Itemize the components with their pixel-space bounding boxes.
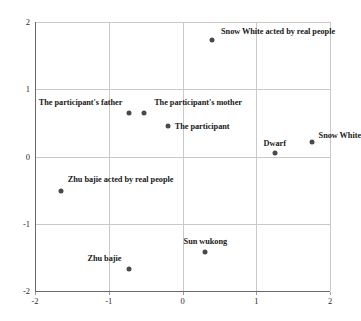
y-tick-label: 2 (8, 17, 30, 27)
y-tick-label: -1 (8, 219, 30, 229)
y-tick-label: -2 (8, 286, 30, 296)
data-point (165, 123, 170, 128)
point-label: The participant's father (39, 97, 123, 106)
x-tick-mark (109, 292, 110, 295)
x-tick-label: 2 (319, 296, 341, 306)
x-tick-label: -2 (24, 296, 46, 306)
point-label: Zhu bajie (87, 254, 121, 263)
y-tick-label: 0 (8, 152, 30, 162)
point-label: Sun wukong (184, 236, 228, 245)
x-tick-label: 0 (172, 296, 194, 306)
point-label: The participant's mother (154, 97, 242, 106)
x-tick-mark (330, 292, 331, 295)
gridline-vertical (256, 22, 257, 291)
data-point (58, 189, 63, 194)
point-label: Snow White (319, 130, 361, 139)
x-tick-mark (183, 292, 184, 295)
point-label: Dwarf (264, 139, 286, 148)
point-label: Zhu bajie acted by real people (68, 175, 174, 184)
x-tick-label: 1 (245, 296, 267, 306)
data-point (127, 110, 132, 115)
plot-area: Snow White acted by real peopleThe parti… (35, 22, 330, 291)
x-tick-label: -1 (98, 296, 120, 306)
data-point (309, 139, 314, 144)
data-point (272, 151, 277, 156)
gridline-vertical (109, 22, 110, 291)
y-tick-label: 1 (8, 84, 30, 94)
data-point (203, 249, 208, 254)
point-label: Snow White acted by real people (221, 27, 335, 36)
data-point (210, 38, 215, 43)
y-axis-line (35, 22, 36, 291)
x-tick-mark (35, 292, 36, 295)
gridline-vertical (330, 22, 331, 291)
point-label: The participant (175, 121, 230, 130)
gridline-vertical (183, 22, 184, 291)
data-point (127, 267, 132, 272)
x-tick-mark (256, 292, 257, 295)
data-point (142, 110, 147, 115)
